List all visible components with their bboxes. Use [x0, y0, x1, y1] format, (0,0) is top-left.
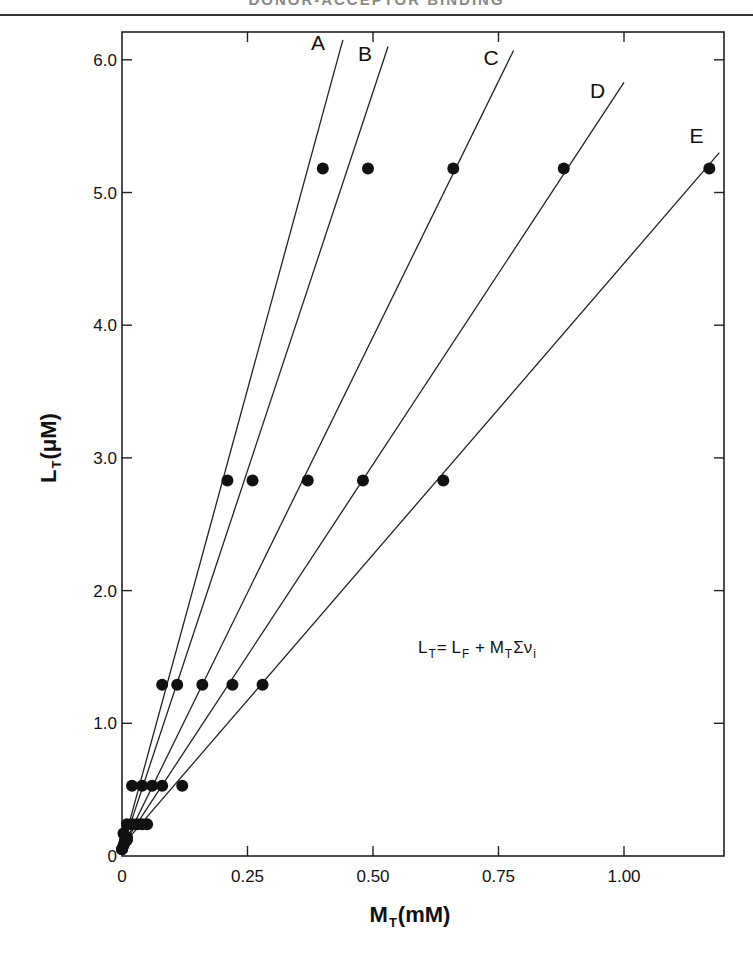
series-label-e: E: [689, 124, 703, 147]
eq-sum: Σν: [513, 638, 532, 657]
plot-frame: [122, 32, 724, 856]
eq-sum-sub: i: [533, 647, 536, 661]
eq-lf-sub: F: [462, 647, 469, 661]
y-tick-label: 0: [108, 847, 117, 866]
data-point: [141, 818, 153, 830]
data-point: [447, 163, 459, 175]
y-tick-label: 1.0: [93, 714, 117, 733]
chart-plot: 00.250.500.751.0001.02.03.04.05.06.0 ABC…: [0, 0, 753, 961]
series-line-d: [125, 82, 624, 842]
data-point: [156, 679, 168, 691]
x-tick-label: 0.50: [356, 867, 389, 886]
data-point: [121, 834, 133, 846]
y-tick-label: 5.0: [93, 184, 117, 203]
data-point: [357, 474, 369, 486]
x-tick-label: 0.75: [482, 867, 515, 886]
axes-frame: [122, 32, 724, 856]
x-axis-unit: (mM): [398, 902, 451, 927]
x-tick-label: 0.25: [231, 867, 264, 886]
data-point: [171, 679, 183, 691]
data-point: [437, 474, 449, 486]
data-point: [176, 780, 188, 792]
y-axis-unit: (μM): [36, 413, 61, 459]
series-line-b: [122, 47, 388, 850]
data-point: [257, 679, 269, 691]
y-tick-label: 6.0: [93, 51, 117, 70]
eq-mt-sub: T: [505, 647, 512, 661]
series-line-e: [127, 153, 719, 840]
x-tick-label: 1.00: [607, 867, 640, 886]
y-axis-subscript: T: [49, 461, 64, 469]
data-point: [226, 679, 238, 691]
series-lines: [122, 40, 719, 849]
data-point: [558, 163, 570, 175]
data-point: [317, 163, 329, 175]
series-label-b: B: [358, 42, 372, 65]
data-point: [302, 474, 314, 486]
y-tick-label: 2.0: [93, 582, 117, 601]
eq-lt-sub: T: [428, 647, 435, 661]
data-point: [196, 679, 208, 691]
series-line-a: [122, 40, 343, 849]
x-axis-label: MT(mM): [320, 902, 500, 928]
data-point: [362, 163, 374, 175]
data-point: [156, 780, 168, 792]
eq-lt: L: [418, 638, 427, 657]
data-points: [116, 163, 715, 856]
y-tick-label: 4.0: [93, 316, 117, 335]
eq-lf: L: [451, 638, 460, 657]
eq-plus: +: [470, 638, 489, 657]
series-label-d: D: [590, 79, 605, 102]
eq-mt: M: [490, 638, 504, 657]
y-tick-label: 3.0: [93, 449, 117, 468]
data-point: [703, 163, 715, 175]
series-label-c: C: [484, 46, 499, 69]
data-point: [221, 474, 233, 486]
y-axis-symbol: L: [36, 469, 61, 482]
eq-equals: =: [437, 638, 452, 657]
x-axis-subscript: T: [389, 915, 397, 930]
y-axis-label: LT(μM): [14, 360, 84, 540]
x-tick-label: 0: [117, 867, 126, 886]
x-axis-symbol: M: [370, 902, 388, 927]
data-point: [247, 474, 259, 486]
series-label-a: A: [311, 31, 325, 54]
series-labels: ABCDE: [311, 31, 704, 147]
axis-ticks: 00.250.500.751.0001.02.03.04.05.06.0: [93, 32, 724, 886]
equation-annotation: LT= LF + MTΣνi: [418, 638, 537, 658]
